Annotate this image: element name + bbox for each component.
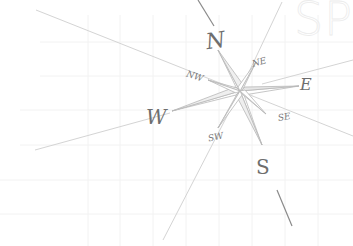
sp-watermark-logo: SP [294,0,353,46]
compass-label-west: W [146,107,167,127]
north-tick [198,0,214,26]
compass-label-north: N [205,29,227,53]
compass-rose [172,50,299,145]
compass-label-south: S [256,157,270,177]
compass-label-east: E [300,77,312,93]
background-grid [0,15,353,246]
